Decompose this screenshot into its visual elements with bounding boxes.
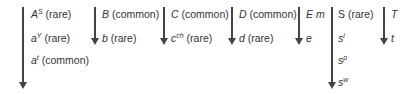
allele-T: T [391, 8, 397, 20]
dominance-arrow-e [298, 7, 300, 39]
allele-b: b (rare) [102, 32, 136, 44]
allele-t: t [391, 32, 394, 44]
allele-A-S: AS (rare) [31, 8, 71, 20]
allele-d: d (rare) [239, 32, 273, 44]
dominance-arrow-b [94, 7, 96, 39]
allele-a-t: at (common) [31, 54, 89, 66]
allele-s-p: sp [338, 54, 347, 66]
allele-c-ch: cch (rare) [171, 32, 212, 44]
allele-E-m: E m [306, 8, 325, 20]
allele-e: e [306, 32, 312, 44]
allele-C: C (common) [171, 8, 229, 20]
dominance-arrow-a [22, 7, 24, 83]
allele-a-Y: aY (rare) [31, 32, 70, 44]
allele-s-w: sw [338, 76, 348, 88]
allele-S: S (rare) [338, 8, 374, 20]
allele-D: D (common) [239, 8, 297, 20]
dominance-arrow-d [231, 7, 233, 39]
dominance-arrow-c [163, 7, 165, 39]
dominance-arrow-t [383, 7, 385, 39]
dominance-arrow-s [331, 7, 333, 83]
allele-s-i: si [338, 32, 345, 44]
allele-B: B (common) [102, 8, 159, 20]
